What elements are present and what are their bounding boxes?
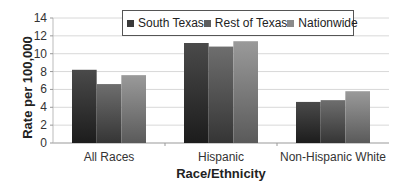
- y-tick-label: 4: [40, 100, 47, 114]
- legend-swatch-icon: [287, 20, 294, 27]
- legend-swatch-icon: [204, 20, 211, 27]
- legend-label: Rest of Texas: [215, 16, 287, 30]
- bar: [121, 75, 146, 143]
- legend-label: South Texas: [138, 16, 204, 30]
- x-axis-ticks: All RacesHispanicNon-Hispanic White: [84, 143, 387, 164]
- y-tick-label: 2: [40, 118, 47, 132]
- x-tick-label: Non-Hispanic White: [280, 150, 386, 164]
- y-axis-label: Rate per 100,000: [20, 33, 35, 143]
- y-axis-ticks: 02468101214: [34, 11, 53, 150]
- y-tick-label: 12: [34, 29, 48, 43]
- x-tick-label: All Races: [84, 150, 135, 164]
- legend-swatch-icon: [127, 20, 134, 27]
- y-tick-label: 14: [34, 11, 48, 25]
- bar: [184, 43, 209, 143]
- y-tick-label: 10: [34, 47, 48, 61]
- bars: [72, 41, 370, 143]
- bar: [321, 100, 346, 143]
- bar: [97, 84, 122, 143]
- x-tick-label: Hispanic: [198, 150, 244, 164]
- bar: [72, 70, 97, 143]
- legend-item-south-texas: South Texas: [127, 16, 204, 30]
- bar: [233, 41, 258, 143]
- legend: South Texas Rest of Texas Nationwide: [122, 10, 354, 36]
- y-tick-label: 6: [40, 82, 47, 96]
- y-tick-label: 0: [40, 136, 47, 150]
- x-axis-label: Race/Ethnicity: [53, 166, 389, 181]
- legend-item-rest-of-texas: Rest of Texas: [204, 16, 287, 30]
- bar: [209, 47, 234, 143]
- legend-item-nationwide: Nationwide: [287, 16, 357, 30]
- bar: [345, 91, 370, 143]
- legend-label: Nationwide: [298, 16, 357, 30]
- y-tick-label: 8: [40, 65, 47, 79]
- bar: [296, 102, 321, 143]
